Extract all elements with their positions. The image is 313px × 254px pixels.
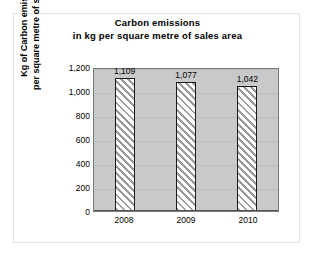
bar-slot: 1,042: [217, 69, 278, 211]
bar-value-label: 1,042: [217, 74, 278, 84]
y-axis-title-line-1: Kg of Carbon emissions: [18, 0, 30, 91]
y-axis-title-line-2: per square metre of sales area: [30, 0, 42, 91]
y-axis-tick-label: 200: [50, 183, 90, 193]
y-axis-tick-label: 1,200: [50, 63, 90, 73]
x-axis-tick-label: 2009: [155, 215, 217, 225]
chart-title-line-2: in kg per square metre of sales area: [14, 29, 301, 42]
bar-slot: 1,077: [155, 69, 216, 211]
y-axis-tick-label: 800: [50, 111, 90, 121]
y-axis-tick-label: 600: [50, 135, 90, 145]
x-axis-tick-label: 2010: [217, 215, 279, 225]
chart-title-line-1: Carbon emissions: [14, 16, 301, 29]
bars-layer: 1,1091,0771,042: [94, 69, 278, 211]
y-axis-tick-labels: 02004006008001,0001,200: [50, 68, 90, 212]
bar-value-label: 1,077: [155, 70, 216, 80]
chart-title: Carbon emissions in kg per square metre …: [14, 16, 301, 42]
y-axis-title: Kg of Carbon emissions per square metre …: [18, 0, 48, 91]
chart-frame: Carbon emissions in kg per square metre …: [13, 13, 300, 243]
y-axis-tick-label: 1,000: [50, 87, 90, 97]
bar-value-label: 1,109: [94, 66, 155, 76]
plot-area: 1,1091,0771,042: [93, 68, 279, 212]
x-axis-tick-labels: 200820092010: [93, 215, 279, 225]
y-axis-tick-label: 0: [50, 207, 90, 217]
y-axis-tick-label: 400: [50, 159, 90, 169]
bar[interactable]: [176, 82, 196, 211]
x-axis-tick-label: 2008: [93, 215, 155, 225]
bar[interactable]: [115, 78, 135, 211]
x-axis-line: [94, 210, 278, 211]
bar-slot: 1,109: [94, 69, 155, 211]
bar[interactable]: [237, 86, 257, 211]
